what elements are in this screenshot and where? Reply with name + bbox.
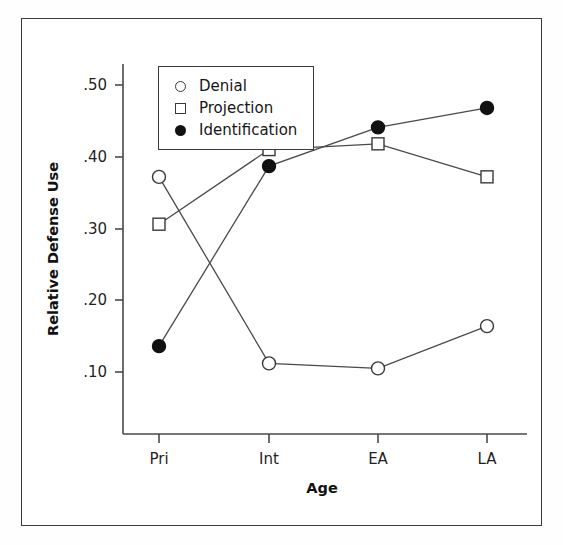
y-tick-label-40: .40 bbox=[83, 148, 107, 166]
open-circle-icon bbox=[170, 81, 190, 92]
y-tick-label-50: .50 bbox=[83, 76, 107, 94]
marker-open-square bbox=[153, 218, 165, 230]
y-tick-label-10: .10 bbox=[83, 363, 107, 381]
series-line-denial bbox=[159, 177, 487, 369]
x-tick-label-la: LA bbox=[478, 450, 498, 468]
marker-open-circle bbox=[372, 362, 385, 375]
legend-label-identification: Identification bbox=[190, 121, 297, 139]
legend-label-denial: Denial bbox=[190, 77, 247, 95]
marker-filled-circle bbox=[481, 101, 494, 114]
open-square-icon bbox=[170, 103, 190, 114]
x-axis-title: Age bbox=[306, 480, 338, 496]
series-line-projection bbox=[159, 144, 487, 224]
marker-open-circle bbox=[263, 357, 276, 370]
figure-frame: .50 .40 .30 .20 .10 Relative Defense Use… bbox=[21, 18, 542, 526]
legend-item-denial: Denial bbox=[170, 75, 297, 97]
marker-filled-circle bbox=[263, 160, 276, 173]
marker-open-circle bbox=[481, 320, 494, 333]
figure-canvas: .50 .40 .30 .20 .10 Relative Defense Use… bbox=[0, 0, 563, 545]
series-projection bbox=[153, 138, 493, 230]
legend-item-projection: Projection bbox=[170, 97, 297, 119]
marker-open-square bbox=[481, 171, 493, 183]
legend-label-projection: Projection bbox=[190, 99, 273, 117]
y-tick-label-30: .30 bbox=[83, 220, 107, 238]
chart-legend: Denial Projection Identification bbox=[158, 66, 314, 150]
y-tick-label-20: .20 bbox=[83, 291, 107, 309]
filled-circle-icon bbox=[170, 125, 190, 136]
y-axis-title: Relative Defense Use bbox=[45, 162, 61, 336]
y-axis-ticks bbox=[115, 85, 123, 372]
marker-filled-circle bbox=[153, 340, 166, 353]
x-tick-label-int: Int bbox=[259, 450, 279, 468]
marker-filled-circle bbox=[372, 121, 385, 134]
legend-item-identification: Identification bbox=[170, 119, 297, 141]
marker-open-circle bbox=[153, 170, 166, 183]
x-tick-label-pri: Pri bbox=[149, 450, 168, 468]
marker-open-square bbox=[372, 138, 384, 150]
x-axis-ticks bbox=[159, 434, 487, 443]
x-tick-label-ea: EA bbox=[368, 450, 388, 468]
